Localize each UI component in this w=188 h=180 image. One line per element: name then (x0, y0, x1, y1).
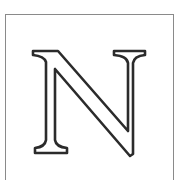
letter-n-outline (33, 51, 145, 156)
letter-n-glyph: N (0, 0, 188, 180)
letter-label: N (0, 0, 14, 4)
